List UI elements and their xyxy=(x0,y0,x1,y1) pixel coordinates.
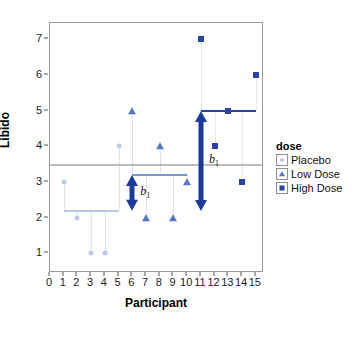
x-tick-mark xyxy=(186,272,187,276)
y-tick-label: 5 xyxy=(20,104,42,116)
data-point[interactable] xyxy=(128,107,136,114)
x-tick-mark xyxy=(49,272,50,276)
data-point[interactable] xyxy=(102,251,107,256)
x-tick-mark xyxy=(227,272,228,276)
y-tick-label: 4 xyxy=(20,139,42,151)
legend: dose PlaceboLow DoseHigh Dose xyxy=(276,140,360,195)
data-point[interactable] xyxy=(156,142,164,149)
data-point[interactable] xyxy=(116,144,121,149)
plot-area: b1b1 xyxy=(50,23,262,271)
y-tick-label: 6 xyxy=(20,68,42,80)
x-tick-mark xyxy=(131,272,132,276)
data-point[interactable] xyxy=(169,214,177,221)
legend-item-placebo[interactable]: Placebo xyxy=(276,153,360,167)
data-stem xyxy=(91,211,92,254)
x-tick-label: 15 xyxy=(245,276,265,288)
data-point[interactable] xyxy=(212,143,218,149)
legend-item-label: Placebo xyxy=(291,154,331,166)
x-tick-mark xyxy=(213,272,214,276)
x-tick-mark xyxy=(158,272,159,276)
square-marker-icon xyxy=(276,182,288,194)
x-tick-mark xyxy=(241,272,242,276)
data-point[interactable] xyxy=(75,215,80,220)
y-tick-mark xyxy=(44,73,48,74)
data-point[interactable] xyxy=(253,72,259,78)
x-axis-title: Participant xyxy=(125,296,187,310)
y-tick-mark xyxy=(44,109,48,110)
legend-item-label: High Dose xyxy=(291,182,342,194)
data-stem xyxy=(64,182,65,211)
b1-arrow-low xyxy=(122,175,142,211)
data-stem xyxy=(160,146,161,175)
data-stem xyxy=(215,111,216,147)
legend-title: dose xyxy=(276,140,360,152)
y-tick-mark xyxy=(44,38,48,39)
data-point[interactable] xyxy=(142,214,150,221)
b1-subscript: 1 xyxy=(215,159,219,168)
x-tick-mark xyxy=(254,272,255,276)
data-point[interactable] xyxy=(198,36,204,42)
grand-mean-line xyxy=(50,165,262,166)
b1-label: b1 xyxy=(209,152,219,168)
data-stem xyxy=(201,39,202,110)
data-stem xyxy=(173,175,174,218)
b1-label: b1 xyxy=(140,184,150,200)
plot-frame: b1b1 xyxy=(49,22,263,272)
x-tick-mark xyxy=(90,272,91,276)
y-tick-label: 7 xyxy=(20,32,42,44)
data-point[interactable] xyxy=(61,179,66,184)
group-mean-line xyxy=(64,210,119,212)
data-point[interactable] xyxy=(89,251,94,256)
circle-marker-icon xyxy=(276,154,288,166)
x-tick-mark xyxy=(172,272,173,276)
legend-item-high-dose[interactable]: High Dose xyxy=(276,181,360,195)
legend-item-low-dose[interactable]: Low Dose xyxy=(276,167,360,181)
y-tick-mark xyxy=(44,216,48,217)
legend-item-label: Low Dose xyxy=(291,168,340,180)
y-tick-label: 3 xyxy=(20,175,42,187)
x-tick-mark xyxy=(199,272,200,276)
x-tick-mark xyxy=(103,272,104,276)
data-point[interactable] xyxy=(239,179,245,185)
x-tick-mark xyxy=(76,272,77,276)
legend-entries: PlaceboLow DoseHigh Dose xyxy=(276,153,360,195)
triangle-marker-icon xyxy=(276,168,288,180)
y-tick-label: 1 xyxy=(20,246,42,258)
b1-subscript: 1 xyxy=(146,191,150,200)
data-point[interactable] xyxy=(225,108,231,114)
y-axis-title: Libido xyxy=(0,112,12,148)
y-tick-mark xyxy=(44,180,48,181)
data-stem xyxy=(242,111,243,182)
data-stem xyxy=(256,75,257,111)
x-tick-mark xyxy=(117,272,118,276)
y-tick-mark xyxy=(44,145,48,146)
data-stem xyxy=(105,211,106,254)
x-tick-mark xyxy=(62,272,63,276)
b1-arrow-high xyxy=(191,111,211,211)
chart-figure: Libido Participant 1234567 0123456789101… xyxy=(0,0,360,340)
data-stem xyxy=(119,146,120,210)
x-tick-mark xyxy=(145,272,146,276)
y-tick-label: 2 xyxy=(20,211,42,223)
y-tick-mark xyxy=(44,252,48,253)
